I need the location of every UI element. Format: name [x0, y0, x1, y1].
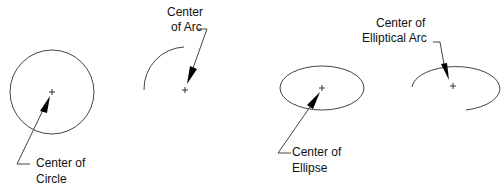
- center-marker-icon: [49, 89, 55, 95]
- arc-label-line-2: of Arc: [171, 20, 202, 34]
- center-marker-icon: [319, 85, 325, 91]
- arrowhead-icon: [187, 66, 197, 84]
- ellipse-label-line-2: Ellipse: [292, 161, 328, 175]
- arc-shape: [144, 47, 184, 90]
- elliptical-arc-label-line-1: Center of: [376, 16, 426, 30]
- arc-leader: [187, 29, 207, 84]
- ellipse-figure: Center of Ellipse: [278, 66, 364, 175]
- elliptical-arc-leader: [433, 42, 449, 80]
- elliptical-arc-shape: [412, 67, 500, 110]
- ellipse-leader: [278, 92, 320, 153]
- arc-figure: Center of Arc: [144, 5, 207, 93]
- circle-leader: [17, 96, 50, 164]
- arrowhead-icon: [441, 63, 449, 80]
- center-marker-icon: [450, 83, 456, 89]
- arrowhead-icon: [307, 92, 320, 109]
- circle-label-line-2: Circle: [36, 172, 67, 186]
- circle-label-line-1: Center of: [36, 156, 86, 170]
- elliptical-arc-figure: Center of Elliptical Arc: [362, 16, 500, 110]
- arrowhead-icon: [40, 96, 50, 113]
- circle-figure: Center of Circle: [10, 50, 94, 186]
- arc-label-line-1: Center: [167, 5, 203, 19]
- ellipse-label-line-1: Center of: [292, 145, 342, 159]
- elliptical-arc-label-line-2: Elliptical Arc: [362, 31, 427, 45]
- center-marker-icon: [182, 87, 188, 93]
- diagram-canvas: Center of Circle Center of Arc Center of…: [0, 0, 502, 193]
